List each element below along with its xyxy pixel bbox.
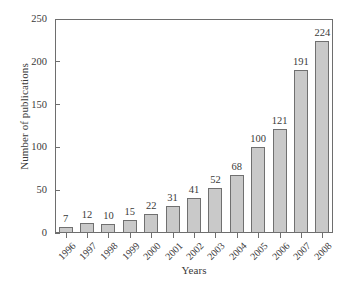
bar [187, 198, 201, 233]
bar [294, 70, 308, 233]
bar [208, 188, 222, 233]
x-tick-mark [130, 233, 131, 238]
y-tick-label: 200 [0, 54, 47, 70]
bar [273, 129, 287, 233]
y-tick-label: 0 [0, 225, 47, 241]
x-tick-mark [301, 233, 302, 238]
x-tick-mark [108, 233, 109, 238]
y-tick-mark [55, 104, 60, 105]
bar [166, 206, 180, 233]
bar [230, 175, 244, 233]
x-tick-mark [258, 233, 259, 238]
x-tick-mark [280, 233, 281, 238]
x-tick-mark [87, 233, 88, 238]
bar [315, 41, 329, 233]
y-tick-mark [55, 61, 60, 62]
x-tick-mark [237, 233, 238, 238]
bar [144, 214, 158, 233]
y-tick-label: 50 [0, 182, 47, 198]
bar-value-label: 224 [302, 27, 342, 39]
bar [101, 224, 115, 233]
bar [123, 220, 137, 233]
y-tick-mark [55, 147, 60, 148]
x-tick-mark [322, 233, 323, 238]
y-tick-label: 100 [0, 139, 47, 155]
bar [80, 223, 94, 233]
y-tick-mark [55, 19, 60, 20]
y-tick-label: 150 [0, 97, 47, 113]
x-tick-mark [173, 233, 174, 238]
x-tick-mark [194, 233, 195, 238]
bar [251, 147, 265, 233]
bar [59, 227, 73, 233]
x-tick-mark [66, 233, 67, 238]
x-tick-mark [151, 233, 152, 238]
y-tick-label: 250 [0, 11, 47, 27]
y-tick-mark [55, 190, 60, 191]
x-tick-mark [215, 233, 216, 238]
bar-chart-figure: Number of publications Years 05010015020… [0, 0, 358, 289]
